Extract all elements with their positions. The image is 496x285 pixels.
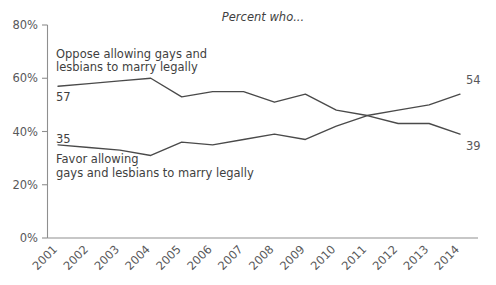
y-tick-label-40: 40% xyxy=(12,125,38,139)
oppose-annotation-line2: lesbians to marry legally xyxy=(56,60,198,74)
y-tick-label-20: 20% xyxy=(12,178,38,192)
x-tick-label-2013: 2013 xyxy=(401,242,432,273)
x-tick-label-2012: 2012 xyxy=(370,242,401,273)
chart-title: Percent who... xyxy=(222,10,304,24)
chart-svg: 80% 60% 40% 20% 0% 200120022003200420052… xyxy=(0,0,496,285)
oppose-end-value: 39 xyxy=(466,139,481,153)
oppose-start-value: 57 xyxy=(56,90,71,104)
x-tick-label-2008: 2008 xyxy=(246,242,277,273)
y-axis-labels: 80% 60% 40% 20% 0% xyxy=(12,18,38,245)
x-tick-label-2007: 2007 xyxy=(215,242,246,273)
y-tick-label-60: 60% xyxy=(12,71,38,85)
x-tick-label-2006: 2006 xyxy=(184,242,215,273)
x-tick-label-2005: 2005 xyxy=(153,242,184,273)
favor-start-value: 35 xyxy=(56,132,71,146)
x-tick-label-2014: 2014 xyxy=(432,242,463,273)
favor-annotation-line1: Favor allowing xyxy=(56,152,139,166)
oppose-annotation: Oppose allowing gays and lesbians to mar… xyxy=(56,47,207,74)
x-tick-label-2003: 2003 xyxy=(91,242,122,273)
favor-annotation: Favor allowing gays and lesbians to marr… xyxy=(56,152,254,180)
x-tick-label-2004: 2004 xyxy=(122,242,153,273)
y-axis-ticks xyxy=(42,25,48,238)
x-tick-label-2009: 2009 xyxy=(277,242,308,273)
x-tick-label-2010: 2010 xyxy=(308,242,339,273)
y-tick-label-80: 80% xyxy=(12,18,38,32)
oppose-annotation-line1: Oppose allowing gays and xyxy=(56,47,207,61)
y-tick-label-0: 0% xyxy=(20,231,38,245)
favor-end-value: 54 xyxy=(466,73,481,87)
series-line-favor xyxy=(58,94,460,155)
favor-annotation-line2: gays and lesbians to marry legally xyxy=(56,166,254,180)
series-line-oppose xyxy=(58,78,460,134)
x-tick-label-2002: 2002 xyxy=(60,242,91,273)
x-tick-label-2001: 2001 xyxy=(30,242,61,273)
line-chart: 80% 60% 40% 20% 0% 200120022003200420052… xyxy=(0,0,496,285)
x-tick-label-2011: 2011 xyxy=(339,242,370,273)
x-axis-labels: 2001200220032004200520062007200820092010… xyxy=(30,242,463,273)
